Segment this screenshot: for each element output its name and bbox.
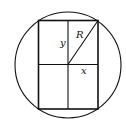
label-r: R	[75, 29, 84, 40]
label-y: y	[59, 37, 66, 48]
label-x: x	[81, 65, 87, 76]
radius-line	[68, 21, 98, 65]
inscribed-rectangle-diagram: y R x	[0, 0, 126, 134]
